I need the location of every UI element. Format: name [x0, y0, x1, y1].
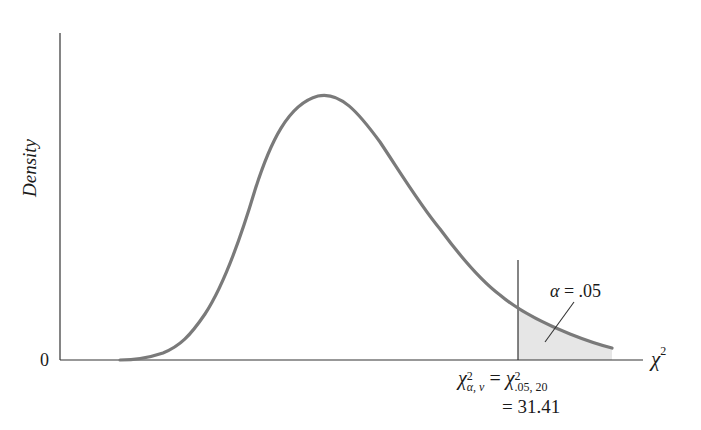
crit-sub-1: α, v [467, 382, 485, 393]
y-axis-zero-label: 0 [40, 351, 49, 369]
density-curve [120, 95, 612, 360]
alpha-annotation: α = .05 [550, 282, 601, 300]
chart-plot-area [0, 0, 701, 430]
crit-chi-1: χ [458, 367, 467, 389]
chi-superscript: 2 [660, 344, 666, 358]
critical-value-number: = 31.41 [502, 397, 560, 416]
chi-symbol: χ [651, 347, 660, 371]
alpha-value: = .05 [559, 281, 601, 301]
crit-subsup-2: 2.05, 20 [515, 371, 548, 393]
x-axis-label: χ2 [651, 348, 666, 370]
crit-equals: = [484, 367, 505, 389]
critical-value-label: χ2α, v = χ2.05, 20 [458, 368, 548, 393]
y-axis-label: Density [20, 139, 39, 197]
crit-chi-2: χ [506, 367, 515, 389]
crit-subsup-1: 2α, v [467, 371, 485, 393]
crit-sub-2: .05, 20 [515, 382, 548, 393]
